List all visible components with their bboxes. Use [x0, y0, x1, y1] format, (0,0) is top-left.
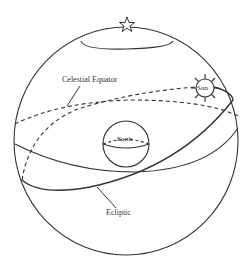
earth-label: Earth [117, 135, 132, 143]
celestial-equator-pointer [67, 86, 80, 106]
ecliptic-label: Ecliptic [106, 208, 131, 217]
earth [103, 121, 149, 167]
sun-label: Sun [197, 84, 208, 92]
star-icon [120, 17, 135, 32]
celestial-equator-label: Celestial Equator [62, 75, 117, 84]
celestial-sphere-diagram [0, 0, 252, 263]
polar-circle-arc [81, 41, 173, 49]
ecliptic-pointer [97, 187, 116, 208]
celestial-equator-back [15, 100, 238, 124]
ecliptic-back [22, 87, 196, 180]
